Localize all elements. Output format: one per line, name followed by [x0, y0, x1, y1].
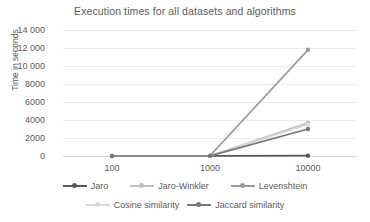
x-axis-tick-label: 10000 [273, 163, 343, 173]
legend-label: Cosine similarity [114, 200, 180, 210]
chart-title: Execution times for all datasets and alg… [0, 5, 370, 17]
y-axis-tick-label: 6000 [0, 97, 45, 107]
series-line [112, 50, 308, 156]
x-axis-tick-label: 1000 [175, 163, 245, 173]
legend-swatch-icon [187, 200, 211, 209]
y-axis-tick-label: 12 000 [0, 43, 45, 53]
y-axis-tick-label: 14 000 [0, 25, 45, 35]
series-jaro-winkler [110, 121, 310, 159]
data-point-marker [306, 153, 310, 157]
legend-item-jaro-winkler[interactable]: Jaro-Winkler [130, 181, 209, 191]
legend-label: Jaccard similarity [215, 200, 284, 210]
series-cosine-similarity [110, 122, 310, 158]
legend-swatch-icon [231, 181, 255, 190]
legend-row-1: JaroJaro-WinklerLevenshtein [0, 176, 370, 195]
legend-item-jaro[interactable]: Jaro [63, 181, 109, 191]
series-lines [63, 30, 357, 156]
data-point-marker [208, 154, 212, 158]
data-point-marker [110, 154, 114, 158]
y-axis-tick-label: 4000 [0, 115, 45, 125]
execution-times-line-chart: Execution times for all datasets and alg… [0, 0, 370, 222]
legend-item-cosine-similarity[interactable]: Cosine similarity [86, 200, 180, 210]
legend-label: Jaro [91, 181, 109, 191]
y-axis-tick-label: 8000 [0, 79, 45, 89]
x-axis-tick-label: 100 [77, 163, 147, 173]
legend-swatch-icon [86, 200, 110, 209]
y-axis-tick-label: 2000 [0, 133, 45, 143]
y-axis-tick-label: 10 000 [0, 61, 45, 71]
chart-legend: JaroJaro-WinklerLevenshtein Cosine simil… [0, 176, 370, 214]
plot-area: 0200040006000800010 00012 00014 000 1001… [63, 30, 357, 156]
legend-item-levenshtein[interactable]: Levenshtein [231, 181, 308, 191]
data-point-marker [306, 122, 310, 126]
legend-swatch-icon [63, 181, 87, 190]
series-levenshtein [110, 48, 310, 159]
legend-row-2: Cosine similarityJaccard similarity [0, 195, 370, 214]
legend-label: Levenshtein [259, 181, 308, 191]
legend-label: Jaro-Winkler [158, 181, 209, 191]
legend-swatch-icon [130, 181, 154, 190]
data-point-marker [306, 48, 310, 52]
series-line [112, 125, 308, 156]
series-line [112, 123, 308, 156]
y-axis-tick-label: 0 [0, 151, 45, 161]
legend-item-jaccard-similarity[interactable]: Jaccard similarity [187, 200, 284, 210]
data-point-marker [306, 127, 310, 131]
